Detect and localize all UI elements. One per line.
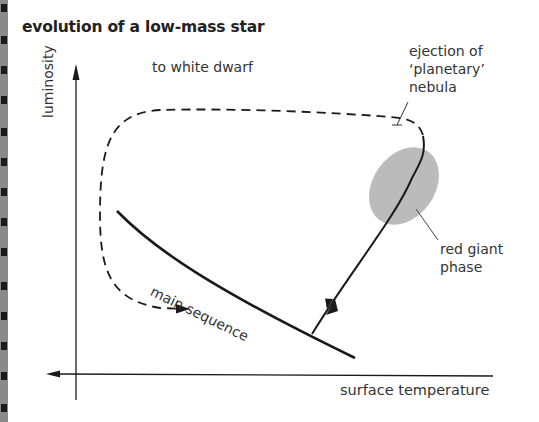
y-axis <box>73 64 80 400</box>
red-giant-label-line2: phase <box>440 258 482 276</box>
nebula-label-line3: nebula <box>409 78 457 96</box>
red-giant-label-line1: red giant <box>440 240 503 258</box>
x-axis <box>46 371 493 378</box>
nebula-label-line2: ‘planetary’ <box>409 60 485 78</box>
y-axis-label: luminosity <box>40 45 56 118</box>
red-giant-leader-line <box>416 209 438 240</box>
white-dwarf-label: to white dwarf <box>152 58 253 76</box>
red-giant-blob <box>355 134 454 238</box>
x-axis-arrow-icon <box>46 371 60 378</box>
y-axis-arrow-icon <box>73 64 80 80</box>
nebula-leader-line <box>397 102 408 125</box>
nebula-label-line1: ejection of <box>409 42 483 60</box>
x-axis-label: surface temperature <box>340 381 489 399</box>
